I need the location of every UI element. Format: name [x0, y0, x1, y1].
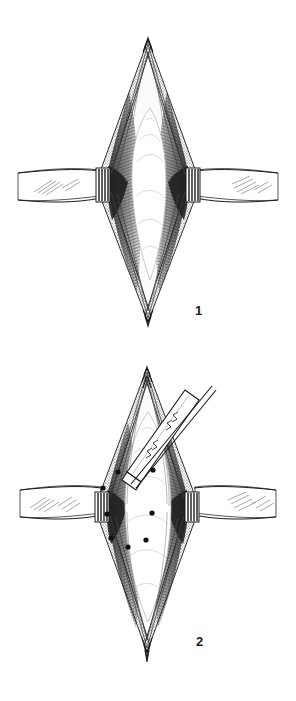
wound-cavity: [107, 40, 189, 320]
illustration-sheet: 1: [0, 0, 296, 701]
skin-flap-right: [195, 169, 278, 202]
retractor-blade-right: [186, 168, 200, 202]
panel-2: 2: [0, 350, 296, 701]
marker-dot: [125, 544, 130, 549]
marker-dot: [150, 467, 155, 472]
marker-dot: [149, 510, 154, 515]
marker-dot: [143, 537, 148, 542]
skin-flap-left: [18, 169, 101, 202]
retractor-blade-left: [95, 492, 109, 522]
panel-1: 1: [0, 0, 296, 350]
marker-dot: [100, 485, 105, 490]
retractor-blade-left: [96, 168, 110, 202]
marker-dot: [115, 469, 120, 474]
panel-2-number: 2: [196, 635, 203, 648]
panel-1-drawing: [0, 0, 296, 350]
panel-1-number: 1: [195, 304, 202, 317]
retractor-blade-right: [185, 492, 199, 522]
marker-dot: [104, 511, 109, 516]
skin-flap-right: [194, 486, 276, 519]
skin-flap-left: [20, 486, 102, 519]
marker-dot: [108, 535, 113, 540]
panel-2-drawing: [0, 350, 296, 701]
